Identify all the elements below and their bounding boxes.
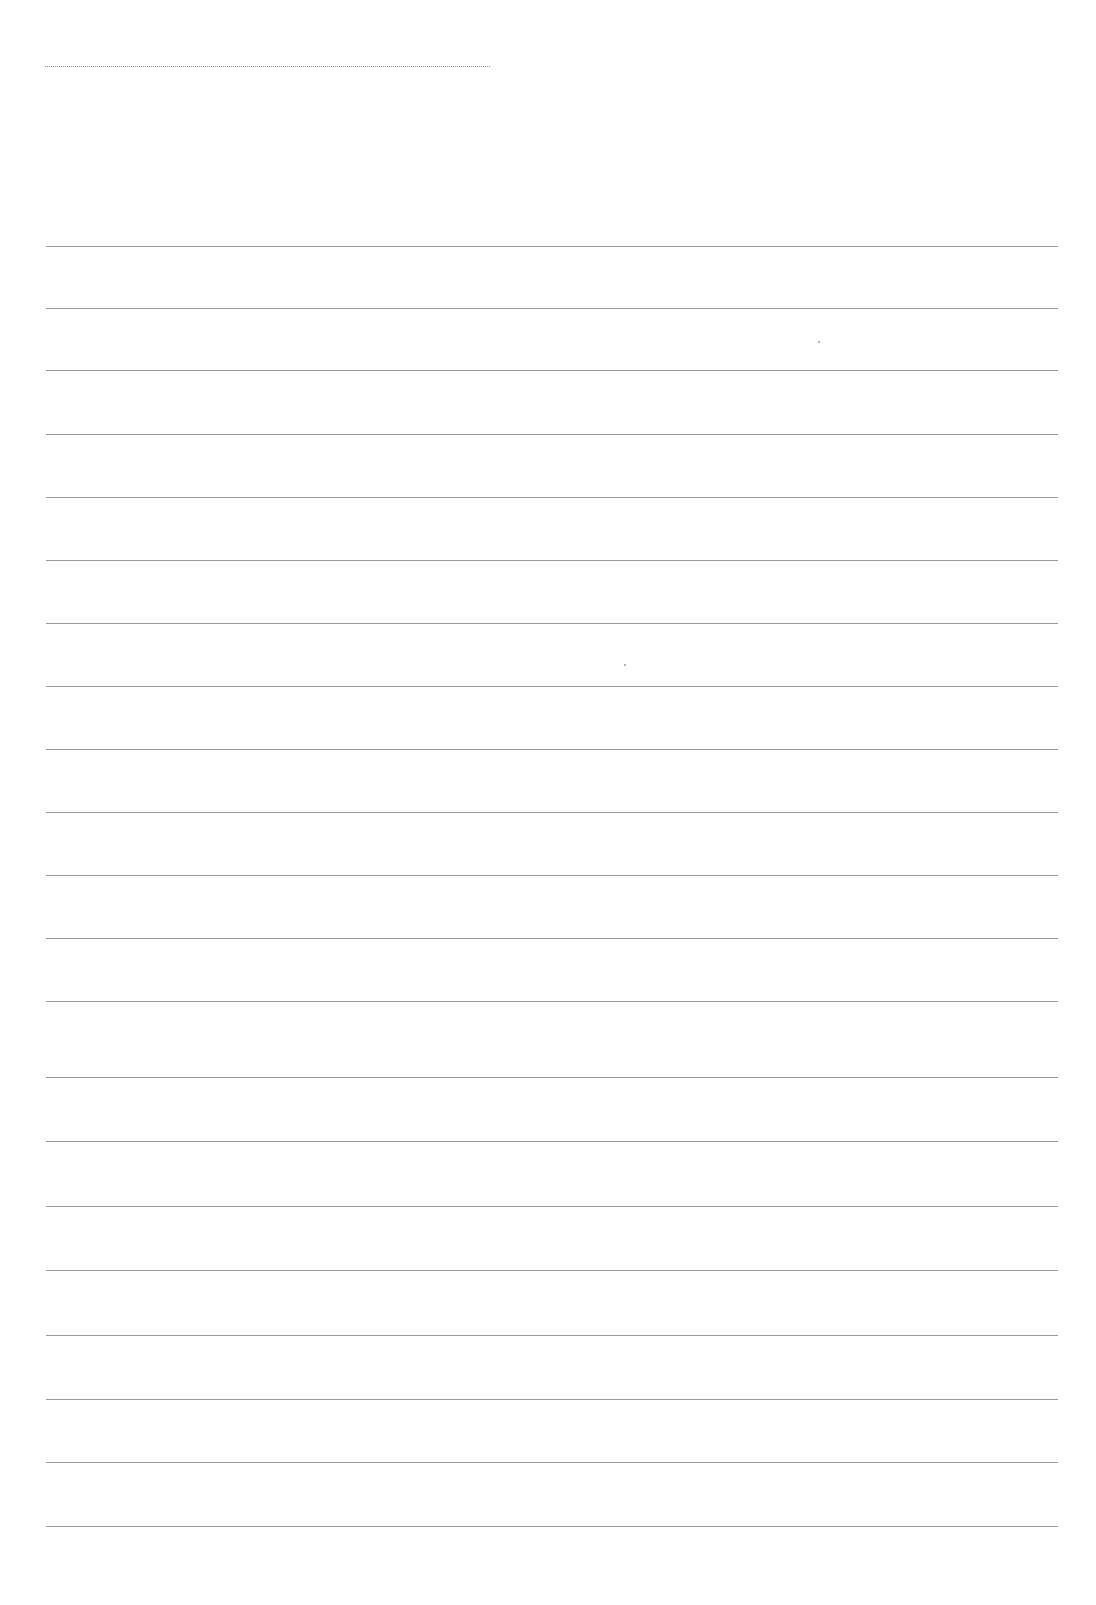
ruled-line: [46, 1526, 1058, 1527]
ruled-paper-page: [0, 0, 1096, 1605]
ruled-line: [46, 308, 1058, 309]
ruled-line: [46, 749, 1058, 750]
ruled-line: [46, 497, 1058, 498]
ruled-line: [46, 1399, 1058, 1400]
ruled-line: [46, 1206, 1058, 1207]
ruled-line: [46, 812, 1058, 813]
ruled-line: [46, 560, 1058, 561]
ruled-line: [46, 1141, 1058, 1142]
ruled-line: [46, 370, 1058, 371]
ruled-line: [46, 623, 1058, 624]
ruled-line: [46, 434, 1058, 435]
scan-speck: [624, 664, 626, 666]
title-writing-line: [45, 66, 490, 67]
scan-speck: [818, 341, 820, 343]
ruled-line: [46, 246, 1058, 247]
ruled-line: [46, 1462, 1058, 1463]
ruled-line: [46, 1335, 1058, 1336]
ruled-line: [46, 938, 1058, 939]
ruled-line: [46, 1001, 1058, 1002]
ruled-line: [46, 686, 1058, 687]
ruled-line: [46, 1270, 1058, 1271]
ruled-line: [46, 1077, 1058, 1078]
ruled-line: [46, 875, 1058, 876]
